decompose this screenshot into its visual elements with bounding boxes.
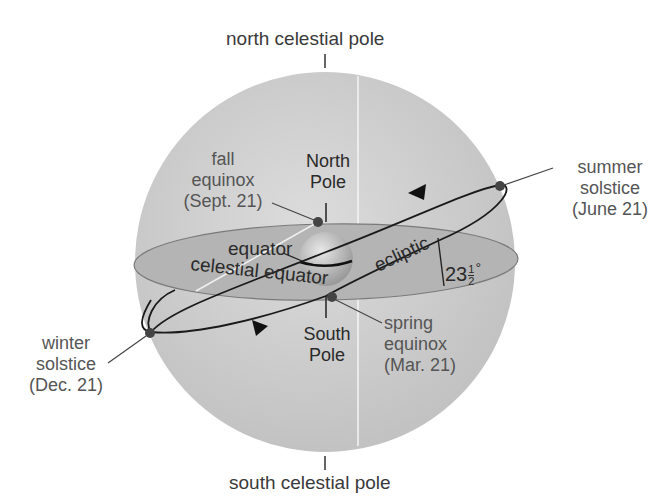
- fall-equinox-point: [313, 217, 323, 227]
- summer-solstice-point: [495, 181, 505, 191]
- spring-equinox-line3: (Mar. 21): [384, 355, 468, 376]
- winter-solstice-label: winter solstice (Dec. 21): [20, 333, 112, 396]
- degree-symbol: °: [475, 260, 481, 276]
- south-pole-line1: South: [297, 324, 357, 345]
- spring-equinox-point: [327, 292, 337, 302]
- north-pole-label: North Pole: [300, 151, 356, 193]
- spring-equinox-line2: equinox: [384, 334, 468, 355]
- winter-solstice-line2: solstice: [20, 354, 112, 375]
- north-pole-line2: Pole: [300, 172, 356, 193]
- south-pole-line2: Pole: [297, 345, 357, 366]
- equator-label: equator: [228, 238, 292, 259]
- fall-equinox-line3: (Sept. 21): [176, 191, 270, 212]
- tilt-angle-label: 2312°: [445, 258, 481, 287]
- spring-equinox-label: spring equinox (Mar. 21): [384, 313, 468, 376]
- winter-solstice-line1: winter: [20, 333, 112, 354]
- winter-solstice-line3: (Dec. 21): [20, 375, 112, 396]
- fall-equinox-label: fall equinox (Sept. 21): [176, 149, 270, 212]
- summer-solstice-line1: summer: [556, 157, 664, 178]
- fall-equinox-line2: equinox: [176, 170, 270, 191]
- summer-solstice-label: summer solstice (June 21): [556, 157, 664, 220]
- winter-solstice-point: [145, 328, 155, 338]
- south-celestial-pole-label: south celestial pole: [229, 472, 391, 493]
- north-celestial-pole-label: north celestial pole: [226, 28, 384, 49]
- spring-equinox-line1: spring: [384, 313, 468, 334]
- south-pole-label: South Pole: [297, 324, 357, 366]
- summer-solstice-line3: (June 21): [556, 199, 664, 220]
- winter-solstice-leader: [108, 336, 146, 363]
- tilt-denominator: 2: [468, 276, 474, 287]
- tilt-whole: 23: [445, 263, 467, 285]
- tilt-fraction: 12: [468, 264, 474, 287]
- summer-solstice-line2: solstice: [556, 178, 664, 199]
- fall-equinox-line1: fall: [176, 149, 270, 170]
- summer-solstice-leader: [504, 168, 553, 185]
- celestial-sphere-diagram: celestial equator ecliptic: [0, 0, 668, 501]
- north-pole-line1: North: [300, 151, 356, 172]
